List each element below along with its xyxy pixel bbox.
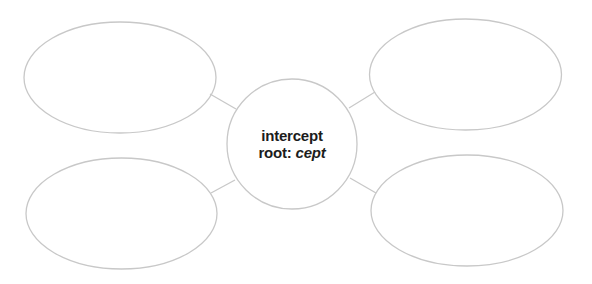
center-word: intercept [261, 127, 323, 144]
branch-node-top-left[interactable] [24, 22, 216, 133]
branch-node-top-right[interactable] [369, 19, 561, 130]
root-line: root: cept [258, 144, 325, 161]
root-label: root: [258, 144, 295, 161]
center-node: intercept root: cept [227, 80, 357, 208]
root-value: cept [296, 144, 326, 161]
branch-node-bottom-right[interactable] [371, 155, 563, 266]
branch-node-bottom-left[interactable] [26, 158, 217, 269]
